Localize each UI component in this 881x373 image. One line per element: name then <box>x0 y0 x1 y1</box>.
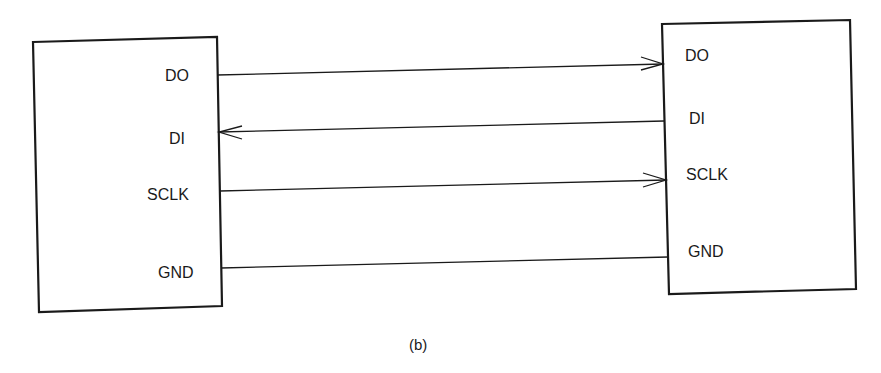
arrow-left-icon <box>219 126 242 139</box>
do-connection <box>217 57 663 75</box>
right-pin-di-label: DI <box>689 111 705 127</box>
gnd-connection <box>221 257 668 268</box>
right-pin-gnd-label: GND <box>688 244 724 260</box>
left-pin-do-label: DO <box>165 68 189 84</box>
figure-caption: (b) <box>409 336 427 353</box>
di-connection <box>219 121 664 139</box>
left-pin-gnd-label: GND <box>158 265 194 281</box>
left-pin-sclk-label: SCLK <box>147 187 189 203</box>
left-pin-di-label: DI <box>169 131 185 147</box>
left-device-box <box>33 37 222 312</box>
arrow-right-icon <box>641 57 663 70</box>
sclk-connection <box>220 173 666 191</box>
diagram-canvas <box>0 0 881 373</box>
right-pin-sclk-label: SCLK <box>686 167 728 183</box>
right-pin-do-label: DO <box>685 48 709 64</box>
